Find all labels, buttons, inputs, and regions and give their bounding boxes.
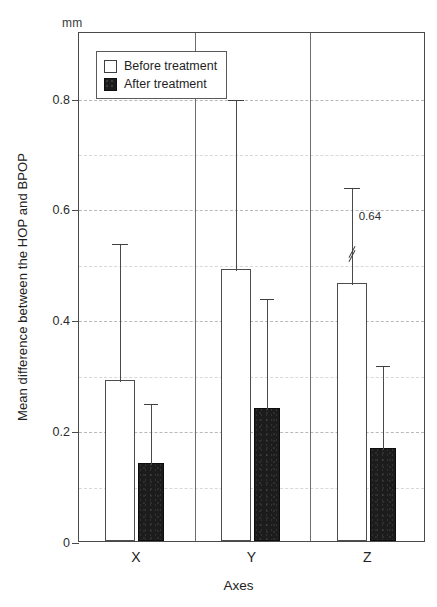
y-axis-tick [72, 100, 79, 101]
y-axis-tick [72, 543, 79, 544]
gridline-major [79, 100, 424, 101]
error-bar-cap [260, 299, 274, 300]
error-bar-x-before [120, 244, 121, 383]
x-axis-tick-label-x: X [131, 549, 140, 565]
y-axis-tick-label: 0.2 [53, 425, 70, 439]
gridline-minor [79, 266, 424, 267]
y-axis-tick-label: 0.4 [53, 314, 70, 328]
error-bar-y-after [267, 299, 268, 410]
chart-figure: mm Mean difference between the HOP and B… [0, 0, 437, 607]
legend-swatch-filled-square [104, 78, 117, 91]
y-axis-unit-label: mm [62, 16, 82, 30]
y-axis-title: Mean difference between the HOP and BPOP [12, 32, 32, 542]
group-separator [310, 33, 311, 541]
legend-item-before: Before treatment [104, 57, 217, 75]
bar-x-after [138, 463, 164, 541]
legend-item-after: After treatment [104, 75, 217, 93]
x-axis-tick-label-y: Y [247, 549, 256, 565]
plot-area: 00.20.40.60.8 0.64 [78, 32, 425, 542]
error-bar-cap [144, 404, 158, 405]
bar-y-before [221, 269, 251, 541]
error-bar-z-after [383, 366, 384, 451]
x-axis-title: Axes [0, 578, 437, 593]
error-value-annotation: 0.64 [359, 210, 381, 222]
axis-break-marker [345, 249, 358, 260]
error-bar-cap [112, 244, 128, 245]
group-separator [195, 33, 196, 541]
chart-legend: Before treatment After treatment [96, 51, 227, 99]
x-axis-tick-label-z: Z [363, 549, 372, 565]
legend-swatch-open-square [104, 60, 117, 73]
y-axis-tick [72, 321, 79, 322]
error-bar-cap [228, 100, 244, 101]
bar-z-after [370, 448, 396, 541]
error-bar-cap [376, 366, 390, 367]
error-bar-x-after [151, 404, 152, 465]
y-axis-tick-label: 0 [63, 536, 70, 550]
y-axis-title-text: Mean difference between the HOP and BPOP [15, 153, 30, 421]
error-bar-cap [344, 188, 360, 189]
gridline-major [79, 321, 424, 322]
gridline-minor [79, 155, 424, 156]
bar-x-before [105, 380, 135, 541]
legend-label-before: Before treatment [124, 59, 217, 73]
y-axis-tick-label: 0.8 [53, 93, 70, 107]
error-bar-y-before [236, 100, 237, 272]
y-axis-tick-label: 0.6 [53, 203, 70, 217]
error-bar-z-before [352, 188, 353, 285]
y-axis-tick [72, 210, 79, 211]
y-axis-tick [72, 432, 79, 433]
gridline-minor [79, 377, 424, 378]
bar-y-after [254, 408, 280, 541]
bar-z-before [337, 283, 367, 541]
legend-label-after: After treatment [124, 77, 207, 91]
